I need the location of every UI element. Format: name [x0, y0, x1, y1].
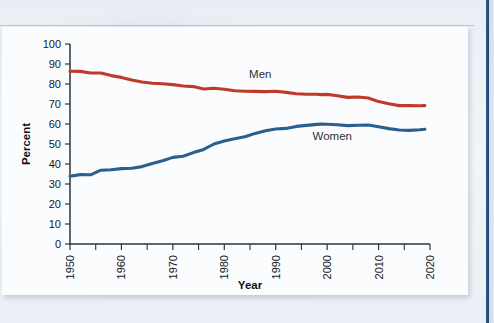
x-tick-label: 1950: [64, 255, 76, 279]
line-chart[interactable]: 0102030405060708090100 19501960197019801…: [2, 27, 468, 295]
y-tick-label: 60: [49, 118, 61, 130]
y-tick-label: 0: [55, 238, 61, 250]
y-tick-label: 90: [49, 58, 61, 70]
y-tick-label: 20: [49, 198, 61, 210]
x-tick-label: 1960: [115, 255, 127, 279]
x-tick-label: 2020: [424, 255, 436, 279]
y-tick-label: 40: [49, 158, 61, 170]
chart-axes: [65, 44, 430, 250]
x-tick-label: 1990: [270, 255, 282, 279]
series-line-men: [70, 71, 425, 106]
x-tick-label: 1980: [218, 255, 230, 279]
y-tick-label: 50: [49, 138, 61, 150]
x-tick-label: 2000: [321, 255, 333, 279]
chart-series-lines: [70, 71, 425, 176]
y-tick-label: 100: [43, 38, 61, 50]
series-label-men: Men: [249, 68, 271, 80]
y-axis-tick-labels: 0102030405060708090100: [43, 38, 61, 250]
x-tick-label: 2010: [373, 255, 385, 279]
series-label-women: Women: [313, 130, 352, 142]
chart-figure-panel: 0102030405060708090100 19501960197019801…: [2, 27, 468, 295]
page-edge-shadow: [489, 0, 494, 323]
y-tick-label: 10: [49, 218, 61, 230]
y-tick-label: 30: [49, 178, 61, 190]
x-tick-label: 1970: [167, 255, 179, 279]
y-tick-label: 70: [49, 98, 61, 110]
chart-canvas[interactable]: 0102030405060708090100 19501960197019801…: [2, 27, 468, 295]
x-axis-tick-labels: 19501960197019801990200020102020: [64, 255, 436, 279]
y-axis-title: Percent: [20, 123, 32, 165]
y-tick-label: 80: [49, 78, 61, 90]
series-line-women: [70, 124, 425, 176]
page-edge-stripe: [486, 0, 489, 323]
page-top-rule: [0, 25, 474, 26]
x-axis-title: Year: [238, 279, 263, 291]
